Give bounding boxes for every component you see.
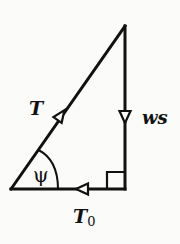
label-T0-subscript: 0 [87, 214, 95, 229]
label-psi: ψ [33, 163, 49, 187]
horizontal-arrow-icon [76, 184, 88, 195]
label-ws: ws [142, 107, 168, 128]
force-triangle-diagram: T ws T0 ψ [0, 0, 180, 244]
label-T: T [29, 97, 45, 119]
right-angle-marker [107, 172, 125, 189]
vertical-arrow-icon [120, 111, 131, 123]
label-T0: T0 [73, 205, 95, 229]
